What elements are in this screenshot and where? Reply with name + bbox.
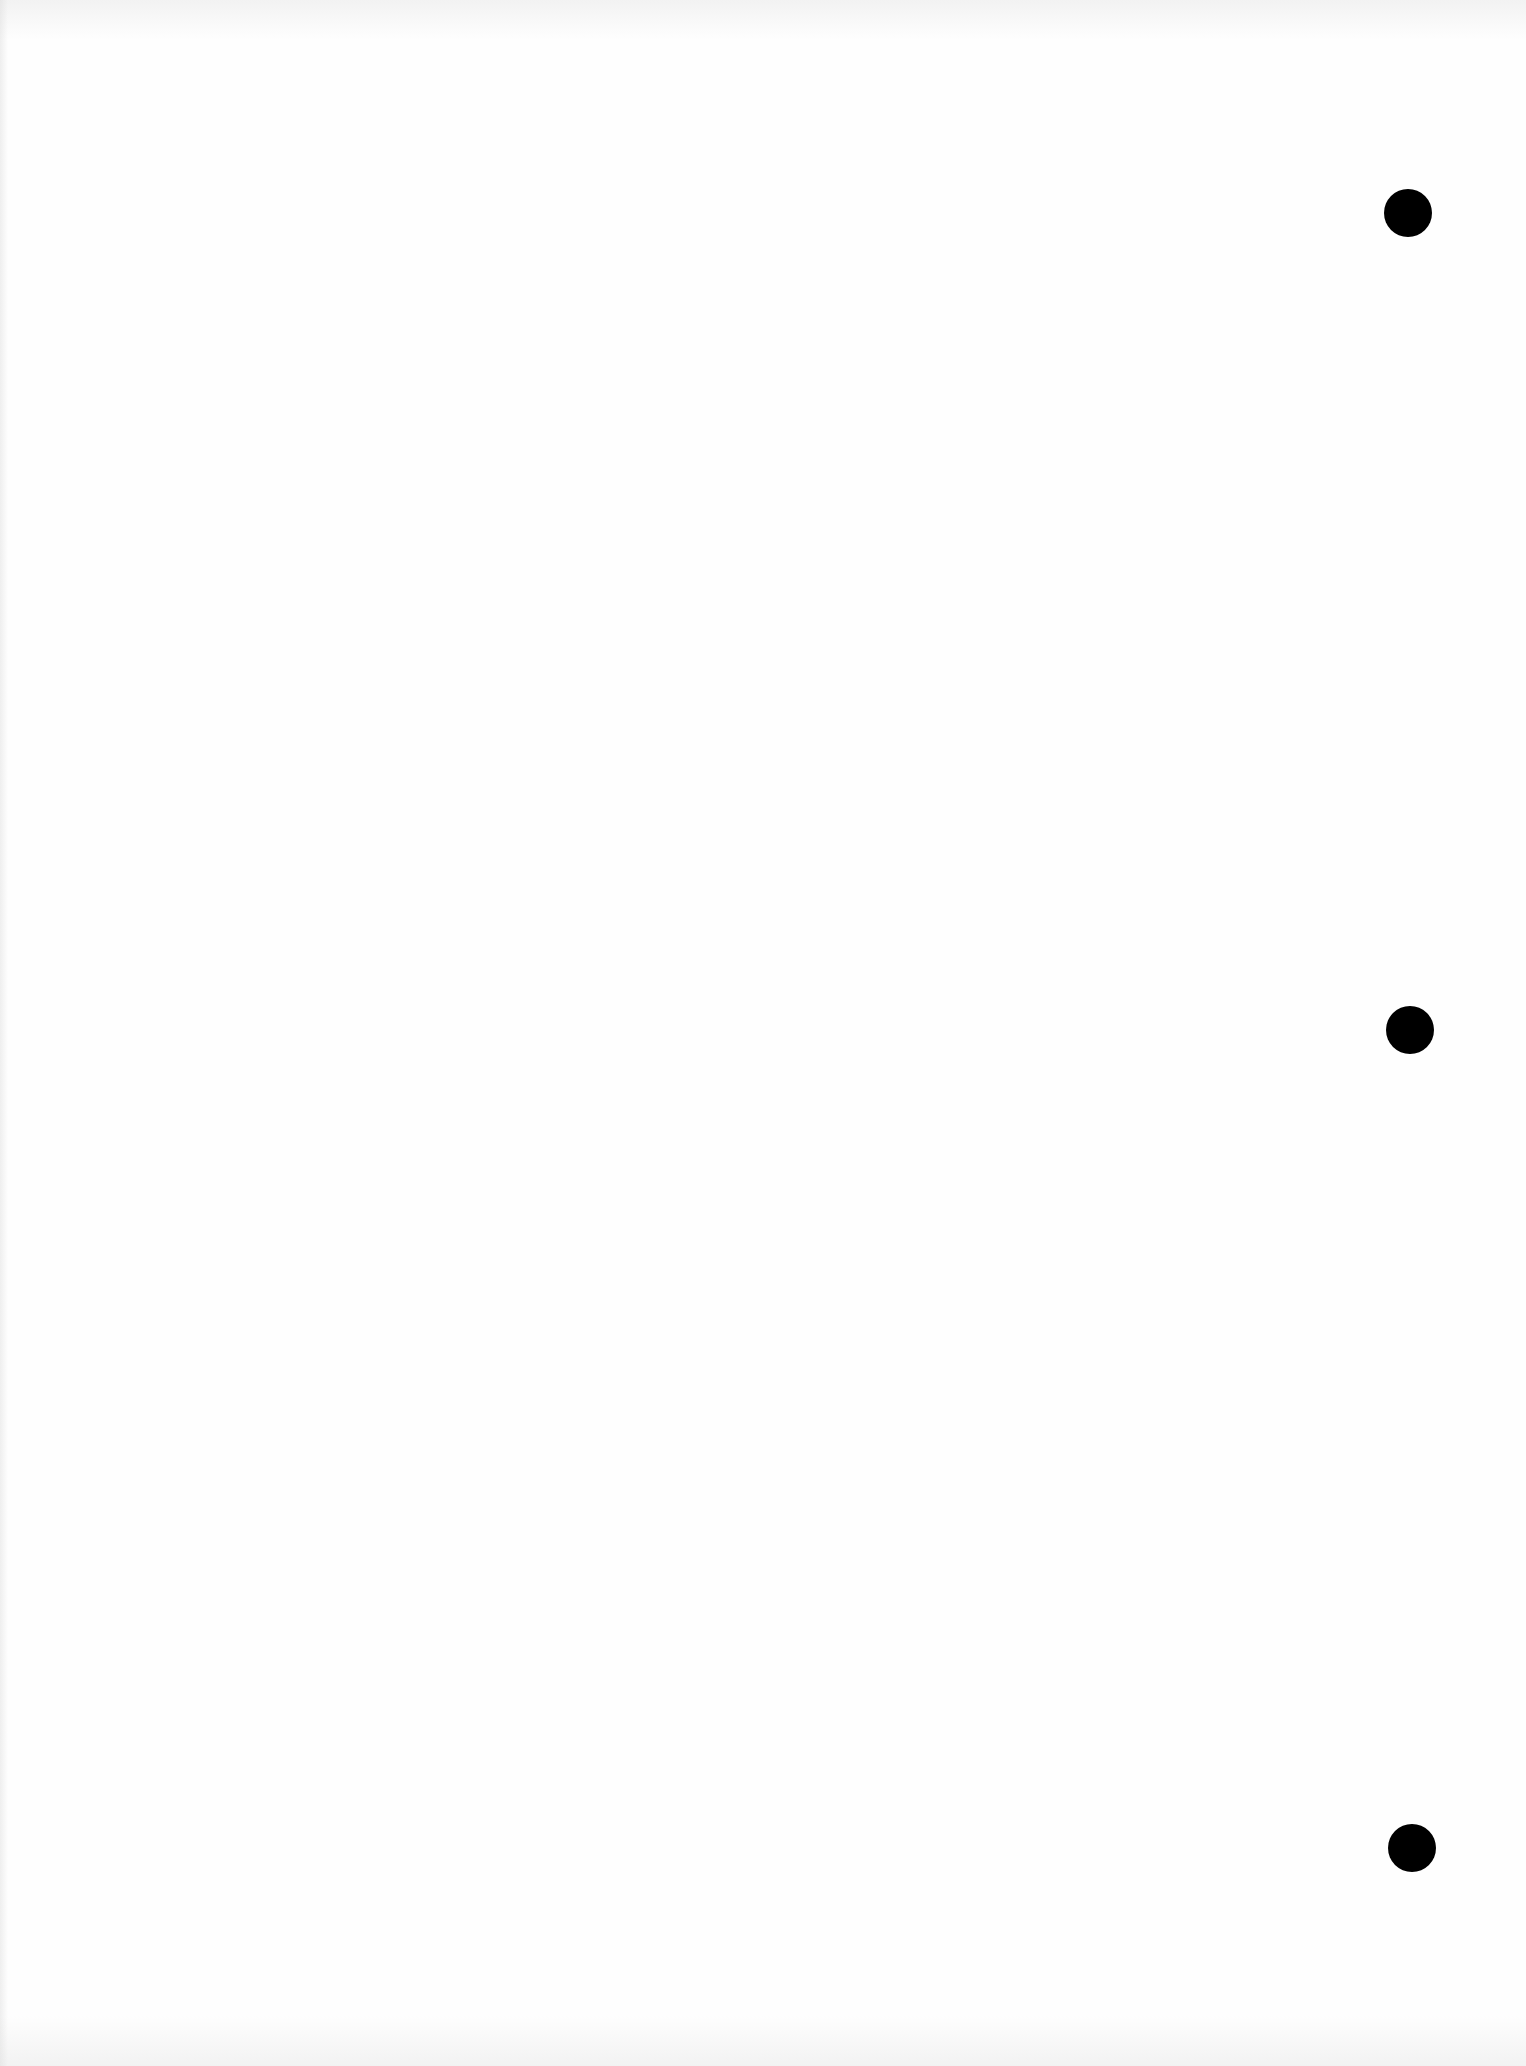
- scan-edge-bottom: [0, 2016, 1526, 2066]
- scan-edge-top: [0, 0, 1526, 40]
- punch-hole-1: [1384, 189, 1432, 237]
- punch-hole-2: [1386, 1006, 1434, 1054]
- blank-scanned-page: [0, 0, 1526, 2066]
- scan-edge-left: [0, 0, 8, 2066]
- punch-hole-3: [1388, 1824, 1436, 1872]
